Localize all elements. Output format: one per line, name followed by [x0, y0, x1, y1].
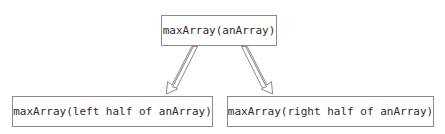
arrow-root-to-right	[242, 47, 273, 95]
node-max-array-root[interactable]: maxArray(anArray)	[161, 15, 277, 46]
node-root-label: maxArray(anArray)	[163, 24, 276, 37]
node-max-array-right-half[interactable]: maxArray(right half of anArray)	[227, 96, 434, 127]
arrow-root-to-left	[166, 47, 197, 95]
node-max-array-left-half[interactable]: maxArray(left half of anArray)	[12, 96, 213, 127]
node-right-label: maxArray(right half of anArray)	[228, 105, 433, 118]
recursion-diagram: maxArray(anArray) maxArray(left half of …	[0, 0, 445, 134]
arrow-root-to-left-shaft	[173, 47, 198, 88]
arrow-root-to-right-shaft	[242, 47, 267, 88]
node-left-label: maxArray(left half of anArray)	[13, 105, 212, 118]
